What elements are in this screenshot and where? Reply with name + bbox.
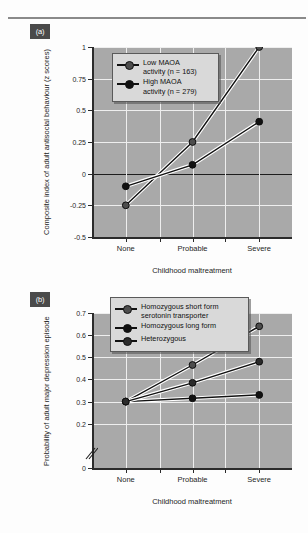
y-tick-mark [88, 237, 92, 238]
data-point-marker[interactable] [256, 118, 263, 125]
x-tick-mark [160, 238, 161, 242]
y-tick-label: 0.25 [52, 139, 86, 146]
y-tick-label: 1 [52, 44, 86, 51]
legend-label: Low MAOA activity (n = 163) [143, 58, 197, 76]
y-tick-mark [88, 142, 92, 143]
x-tick-mark [193, 238, 194, 242]
y-tick-label: 0 [52, 465, 86, 472]
data-point-marker[interactable] [189, 395, 196, 402]
y-tick-label: -0.5 [52, 234, 86, 241]
x-tick-mark [225, 238, 226, 242]
data-point-marker[interactable] [122, 398, 129, 405]
x-tick-label: Probable [177, 475, 207, 484]
x-tick-mark [259, 469, 260, 473]
legend-item[interactable]: Low MAOA activity (n = 163) [117, 58, 213, 76]
legend-label: High MAOA activity (n = 279) [143, 77, 197, 95]
y-tick-mark [88, 468, 92, 469]
data-point-marker[interactable] [189, 362, 196, 369]
y-axis-title-b: Probability of adult major depression ep… [42, 316, 51, 466]
y-tick-label: 0.75 [52, 75, 86, 82]
x-tick-mark [160, 469, 161, 473]
y-tick-label: 0.6 [52, 332, 86, 339]
chart-panel-b: Probability of adult major depression ep… [0, 265, 308, 533]
series-line [126, 122, 259, 187]
y-tick-label: 0.3 [52, 398, 86, 405]
x-tick-label: Severe [247, 244, 271, 253]
legend-marker-icon [117, 59, 139, 70]
legend-b[interactable]: Homozygous short form serotonin transpor… [110, 297, 249, 352]
data-point-marker[interactable] [189, 161, 196, 168]
legend-label: Homozygous short form serotonin transpor… [141, 302, 218, 320]
axis-break-marker-b [84, 446, 98, 462]
figure-canvas: (a) Composite index of adult antisocial … [0, 0, 308, 533]
y-tick-mark [88, 335, 92, 336]
x-tick-label: Probable [177, 244, 207, 253]
y-tick-mark [88, 205, 92, 206]
legend-marker-icon [115, 335, 137, 346]
legend-marker-icon [115, 322, 137, 333]
y-tick-label: 0 [52, 170, 86, 177]
y-tick-label: 0.7 [52, 310, 86, 317]
y-tick-mark [88, 424, 92, 425]
data-point-marker[interactable] [256, 47, 263, 50]
data-point-marker[interactable] [122, 183, 129, 190]
x-tick-label: None [117, 244, 135, 253]
data-point-marker[interactable] [189, 139, 196, 146]
x-tick-mark [225, 469, 226, 473]
y-tick-label: 0.2 [52, 420, 86, 427]
y-tick-mark [88, 313, 92, 314]
legend-marker-icon [115, 303, 137, 314]
legend-label: Heterozygous [141, 334, 186, 343]
y-axis-line-a [92, 47, 94, 238]
y-tick-label: 0.5 [52, 354, 86, 361]
series-line-halo [126, 122, 259, 187]
data-point-marker[interactable] [256, 323, 263, 330]
x-axis-title-b: Childhood maltreatment [152, 497, 232, 506]
x-tick-mark [259, 238, 260, 242]
y-tick-mark [88, 402, 92, 403]
legend-a[interactable]: Low MAOA activity (n = 163)High MAOA act… [112, 53, 219, 102]
y-tick-mark [88, 79, 92, 80]
data-point-marker[interactable] [256, 358, 263, 365]
y-tick-mark [88, 379, 92, 380]
y-tick-mark [88, 174, 92, 175]
legend-item[interactable]: Homozygous long form [115, 321, 243, 333]
data-point-marker[interactable] [256, 392, 263, 399]
x-tick-label: None [117, 475, 135, 484]
legend-marker-icon [117, 78, 139, 89]
y-tick-label: -0.25 [52, 202, 86, 209]
legend-label: Homozygous long form [141, 321, 216, 330]
data-point-marker[interactable] [122, 202, 129, 209]
x-tick-label: Severe [247, 475, 271, 484]
legend-item[interactable]: High MAOA activity (n = 279) [117, 77, 213, 95]
y-tick-mark [88, 357, 92, 358]
y-tick-label: 0.4 [52, 376, 86, 383]
data-point-marker[interactable] [189, 379, 196, 386]
y-axis-title-a: Composite index of adult antisocial beha… [42, 49, 51, 235]
legend-item[interactable]: Heterozygous [115, 334, 243, 346]
x-tick-mark [126, 238, 127, 242]
chart-panel-a: Composite index of adult antisocial beha… [0, 0, 308, 265]
y-tick-mark [88, 110, 92, 111]
x-tick-mark [193, 469, 194, 473]
x-tick-mark [126, 469, 127, 473]
y-tick-mark [88, 47, 92, 48]
y-tick-label: 0.5 [52, 107, 86, 114]
legend-item[interactable]: Homozygous short form serotonin transpor… [115, 302, 243, 320]
